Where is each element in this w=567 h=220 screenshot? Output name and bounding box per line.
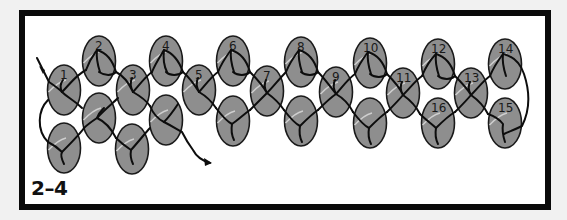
bead-number: 16 xyxy=(431,101,446,115)
bead-14: 14 xyxy=(489,39,522,89)
beads-layer: 12345678910111213141516 xyxy=(48,36,522,174)
exit-arrow-icon xyxy=(204,158,212,166)
bead-number: 15 xyxy=(498,101,513,115)
bead-16: 16 xyxy=(422,98,455,148)
bead-number: 5 xyxy=(195,68,203,82)
bead-number: 11 xyxy=(396,71,411,85)
figure-label: 2–4 xyxy=(31,178,67,198)
bead-number: 7 xyxy=(263,69,271,83)
bead-number: 3 xyxy=(129,68,137,82)
bead-number: 13 xyxy=(464,71,479,85)
bead-diagram: 12345678910111213141516 xyxy=(0,0,567,220)
bead-8: 8 xyxy=(285,37,318,87)
bead-unlabeled xyxy=(48,123,81,173)
bead-number: 9 xyxy=(332,70,340,84)
